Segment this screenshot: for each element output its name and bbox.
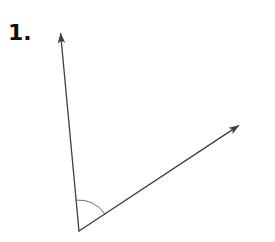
angle-figure — [0, 0, 275, 242]
figure-strokes — [61, 33, 239, 231]
angle-arc — [76, 200, 105, 214]
ray-upper-left — [61, 33, 79, 231]
diagram-page: 1. — [0, 0, 275, 242]
ray-upper-right — [79, 126, 239, 231]
